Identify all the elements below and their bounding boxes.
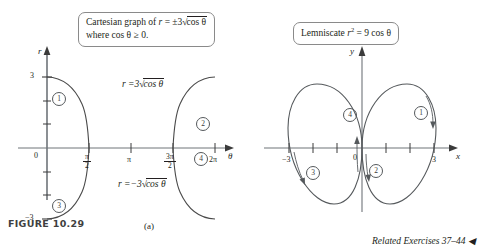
tick-label-x-3: 3 [432,155,436,164]
caption-panel-a: (a) [144,221,154,231]
tick-label-theta-3halfpi: 3π 2 [164,153,176,169]
arrow-path-2 [366,154,368,177]
marker-3-panel-b: 3 [306,166,320,180]
tick-label-x-neg3: −3 [282,155,291,164]
theta-axis-label: θ [228,151,232,161]
arrow-head-4 [354,136,360,144]
tick-label-r-3: 3 [30,71,34,80]
curve-label-positive: r =3√cos θ [122,79,164,89]
lemniscate-left-lobe [288,84,362,204]
marker-1-panel-a: 1 [52,92,66,106]
arrow-head-1 [430,122,436,130]
y-axis-arrowhead [359,46,366,56]
tick-label-origin: 0 [34,151,38,160]
tick-label-x-origin: 0 [353,153,357,162]
marker-2-panel-a: 2 [196,117,210,131]
curve-label-positive-radicand: cos θ [143,78,164,89]
panel-b-plot [240,0,481,251]
curve-label-negative-radicand: cos θ [146,178,167,189]
y-axis-label: y [350,46,354,56]
figure-number: FIGURE 10.29 [8,218,84,229]
tick-label-theta-halfpi: π 2 [83,153,91,169]
x-axis-label: x [456,151,460,161]
curve-label-positive-lhs: r [122,79,126,89]
marker-1-panel-b: 1 [414,106,428,120]
marker-4-panel-b: 4 [343,108,357,122]
lemniscate-right-lobe [362,84,436,204]
tick-label-theta-2pi: 2π [209,155,217,164]
marker-2-panel-b: 2 [369,164,383,178]
arrow-head-3 [300,178,306,186]
tick-label-theta-pi: π [127,155,131,164]
curve-positive-right-branch [173,77,215,148]
arrow-path-4 [357,142,358,172]
marker-4-panel-a: 4 [194,152,208,166]
curve-label-negative-lhs: r [118,179,122,189]
marker-3-panel-a: 3 [52,199,66,213]
curve-positive-left-branch [47,77,89,148]
panel-a-cartesian-graph: Cartesian graph of r = ±3√cos θ where co… [0,0,240,251]
r-axis-label: r [38,46,42,56]
panel-b-lemniscate-graph: Lemniscate r2 = 9 cos θ y x −3 3 0 [240,0,481,251]
curve-label-negative-coef: −3 [131,179,142,189]
curve-label-negative: r =−3√cos θ [118,179,167,189]
r-axis-arrowhead [44,46,51,55]
fraction-pi-over-2: π 2 [83,153,91,169]
fraction-3pi-over-2: 3π 2 [164,153,176,169]
curve-label-positive-sqrt: 3√cos θ [135,79,165,89]
curve-label-negative-sqrt: −3√cos θ [131,179,167,189]
related-exercises: Related Exercises 37–44 ◀ [372,235,475,246]
